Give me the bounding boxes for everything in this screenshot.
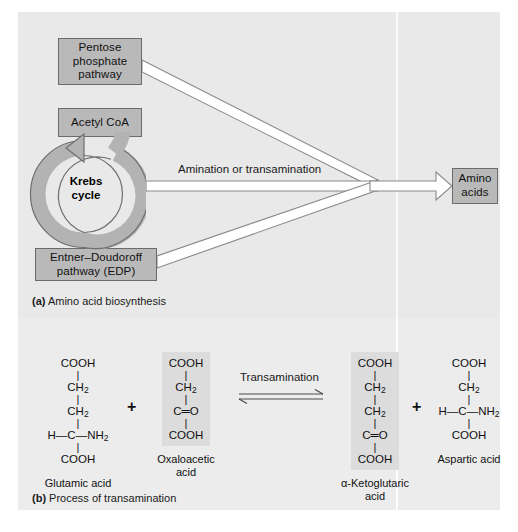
structure-ketoglutaric-acid-name: α-Ketoglutaric acid xyxy=(326,477,424,503)
krebs-cycle-label-line1: Krebs xyxy=(44,175,128,189)
formula-bond: | xyxy=(48,443,109,452)
structure-aspartic-acid: COOH | CH2 | H—C—NH2 | COOH Aspartic aci… xyxy=(424,352,514,466)
structure-aspartic-acid-formula: COOH | CH2 | H—C—NH2 | COOH xyxy=(432,352,507,446)
arrow-edp-to-junction xyxy=(157,180,378,268)
name-line-1: α-Ketoglutaric xyxy=(326,477,424,490)
formula-bond: | xyxy=(48,419,109,428)
structure-ketoglutaric-acid: COOH | CH2 | CH2 | C═O | COOH α-Ketoglut… xyxy=(326,352,424,503)
box-pentose-label: Pentose phosphate pathway xyxy=(59,41,141,82)
structure-oxaloacetic-acid-name: Oxaloacetic acid xyxy=(140,453,232,479)
transamination-label: Transamination xyxy=(240,371,319,383)
name-line-2: acid xyxy=(326,490,424,503)
name-line-1: Oxaloacetic xyxy=(140,453,232,466)
caption-panel-b: (b) Process of transamination xyxy=(32,492,176,504)
formula-bond: | xyxy=(358,395,393,404)
formula-bond: | xyxy=(169,419,204,428)
plus-sign-left: + xyxy=(127,398,136,416)
formula-bond: | xyxy=(439,371,500,380)
structure-oxaloacetic-acid-formula: COOH | CH2 | C═O | COOH xyxy=(162,352,211,446)
structure-glutamic-acid: COOH | CH2 | CH2 | H—C—NH2 | COOH Glutam… xyxy=(28,352,128,490)
amination-arrow-label: Amination or transamination xyxy=(178,163,321,175)
formula-row: COOH xyxy=(358,452,393,467)
formula-bond: | xyxy=(169,395,204,404)
formula-row: COOH xyxy=(169,428,204,443)
krebs-cycle-label: Krebs cycle xyxy=(44,175,128,203)
formula-bond: | xyxy=(48,395,109,404)
formula-bond: | xyxy=(48,371,109,380)
box-pentose-phosphate-pathway[interactable]: Pentose phosphate pathway xyxy=(58,38,142,85)
caption-panel-a: (a) Amino acid biosynthesis xyxy=(32,295,166,307)
equilibrium-arrow xyxy=(237,388,325,406)
structure-aspartic-acid-name: Aspartic acid xyxy=(424,453,514,466)
structure-glutamic-acid-formula: COOH | CH2 | CH2 | H—C—NH2 | COOH xyxy=(41,352,116,470)
equilibrium-arrow-top-head xyxy=(315,390,323,395)
formula-bond: | xyxy=(358,419,393,428)
formula-row: COOH xyxy=(439,428,500,443)
formula-bond: | xyxy=(439,419,500,428)
box-amino-acids-label: Amino acids xyxy=(453,172,497,199)
box-amino-acids[interactable]: Amino acids xyxy=(452,168,498,204)
equilibrium-arrow-bottom-head xyxy=(239,399,247,404)
arrow-junction-to-amino-acids xyxy=(370,172,452,200)
caption-panel-b-text: Process of transamination xyxy=(46,492,176,504)
krebs-acetyl-connector xyxy=(114,132,123,152)
structure-glutamic-acid-name: Glutamic acid xyxy=(28,477,128,490)
formula-bond: | xyxy=(358,371,393,380)
formula-bond: | xyxy=(169,371,204,380)
formula-row: COOH xyxy=(48,452,109,467)
box-acetyl-label: Acetyl CoA xyxy=(71,116,129,130)
arrow-krebs-to-junction xyxy=(146,181,378,191)
structure-ketoglutaric-acid-formula: COOH | CH2 | CH2 | C═O | COOH xyxy=(351,352,400,470)
name-line-2: acid xyxy=(140,466,232,479)
structure-oxaloacetic-acid: COOH | CH2 | C═O | COOH Oxaloacetic acid xyxy=(140,352,232,479)
formula-bond: | xyxy=(358,443,393,452)
caption-panel-a-label: (a) xyxy=(32,295,45,307)
formula-bond: | xyxy=(439,395,500,404)
plus-sign-right: + xyxy=(412,398,421,416)
figure-container: Pentose phosphate pathway Acetyl CoA Ent… xyxy=(0,0,518,532)
krebs-cycle-label-line2: cycle xyxy=(44,189,128,203)
caption-panel-b-label: (b) xyxy=(32,492,46,504)
caption-panel-a-text: Amino acid biosynthesis xyxy=(45,295,165,307)
